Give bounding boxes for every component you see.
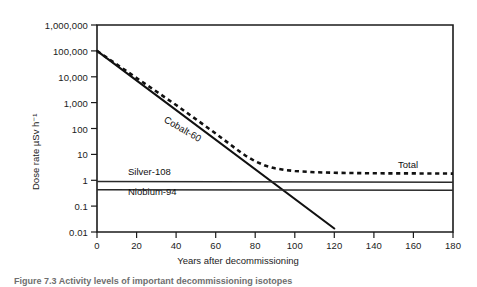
y-axis-ticks [91, 25, 97, 232]
xtick-label-80: 80 [250, 240, 261, 251]
series-silver-108 [97, 182, 453, 183]
xtick-label-0: 0 [94, 240, 99, 251]
xtick-label-20: 20 [131, 240, 142, 251]
xtick-label-160: 160 [405, 240, 421, 251]
xtick-label-40: 40 [171, 240, 182, 251]
ytick-label-1000: 1,000 [20, 97, 88, 108]
x-axis-ticks [97, 232, 453, 238]
x-axis-title: Years after decommissioning [177, 255, 299, 266]
xtick-label-100: 100 [287, 240, 303, 251]
figure-caption: Figure 7.3 Activity levels of important … [14, 276, 464, 286]
plot-border [97, 25, 453, 232]
silver-108-line [97, 182, 453, 183]
y-axis-title: Dose rate µSv h⁻¹ [30, 114, 41, 190]
xtick-label-140: 140 [366, 240, 382, 251]
figure-container: 1,000,000 100,000 10,000 1,000 100 10 1 … [0, 0, 477, 287]
ytick-label-1000000: 1,000,000 [20, 20, 88, 31]
plot-frame [97, 25, 453, 232]
series-label-niobium-94: Niobium-94 [128, 186, 177, 197]
ytick-label-10000: 10,000 [20, 71, 88, 82]
xtick-label-60: 60 [210, 240, 221, 251]
ytick-label-100000: 100,000 [20, 45, 88, 56]
series-label-silver-108: Silver-108 [128, 166, 171, 177]
xtick-label-180: 180 [445, 240, 461, 251]
series-label-total: Total [398, 159, 418, 170]
xtick-label-120: 120 [326, 240, 342, 251]
ytick-label-0.01: 0.01 [20, 227, 88, 238]
ytick-label-0.1: 0.1 [20, 201, 88, 212]
